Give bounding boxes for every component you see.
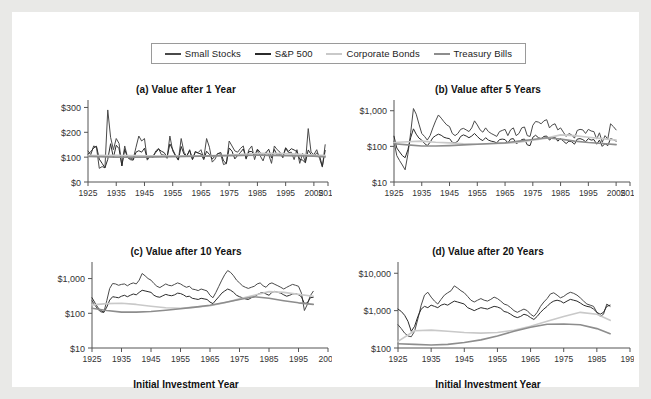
chart-panel-b: (b) Value after 5 Years $10$100$1,000192…	[342, 78, 634, 208]
legend-item-corporate-bonds: Corporate Bonds	[326, 48, 419, 59]
svg-text:1965: 1965	[191, 188, 210, 198]
svg-text:2005: 2005	[319, 354, 332, 364]
svg-text:1935: 1935	[422, 354, 441, 364]
svg-text:1995: 1995	[276, 188, 295, 198]
panel-c-plot: $10$100$1,000192519351945195519651975198…	[40, 240, 332, 368]
svg-text:$10: $10	[70, 344, 85, 354]
svg-text:1995: 1995	[621, 354, 634, 364]
svg-text:1945: 1945	[142, 354, 161, 364]
svg-text:1935: 1935	[412, 188, 431, 198]
svg-text:1985: 1985	[260, 354, 279, 364]
svg-text:$0: $0	[71, 178, 81, 188]
svg-text:$100: $100	[371, 344, 391, 354]
svg-text:1945: 1945	[135, 188, 154, 198]
svg-text:$10: $10	[372, 178, 387, 188]
svg-text:1925: 1925	[83, 354, 102, 364]
svg-text:1965: 1965	[201, 354, 220, 364]
svg-text:1935: 1935	[112, 354, 131, 364]
svg-text:1945: 1945	[440, 188, 459, 198]
svg-text:$100: $100	[65, 309, 85, 319]
svg-text:1985: 1985	[587, 354, 606, 364]
legend-item-treasury-bills: Treasury Bills	[434, 48, 513, 59]
svg-text:1925: 1925	[79, 188, 98, 198]
svg-text:$1,000: $1,000	[359, 106, 387, 116]
svg-text:1955: 1955	[488, 354, 507, 364]
page-background: Small Stocks S&P 500 Corporate Bonds Tre…	[0, 0, 651, 399]
svg-text:1935: 1935	[107, 188, 126, 198]
chart-panel-a: (a) Value after 1 Year $0$100$200$300192…	[40, 78, 332, 208]
svg-text:2010: 2010	[319, 188, 332, 198]
legend-swatch-treasury-bills	[434, 53, 450, 55]
svg-text:2010: 2010	[621, 188, 634, 198]
svg-text:$300: $300	[61, 103, 81, 113]
svg-text:$10,000: $10,000	[358, 269, 391, 279]
svg-text:1955: 1955	[171, 354, 190, 364]
svg-text:$1,000: $1,000	[57, 274, 85, 284]
svg-text:1985: 1985	[248, 188, 267, 198]
chart-panel-c: (c) Value after 10 Years $10$100$1,00019…	[40, 240, 332, 390]
svg-text:1965: 1965	[521, 354, 540, 364]
svg-text:1995: 1995	[289, 354, 308, 364]
svg-text:1985: 1985	[551, 188, 570, 198]
panel-d-plot: $100$1,000$10,00019251935194519551965197…	[342, 240, 634, 368]
chart-legend: Small Stocks S&P 500 Corporate Bonds Tre…	[151, 43, 526, 64]
chart-panel-d: (d) Value after 20 Years $100$1,000$10,0…	[342, 240, 634, 390]
legend-swatch-sp500	[255, 53, 271, 55]
legend-label-sp500: S&P 500	[275, 48, 313, 59]
svg-text:1975: 1975	[220, 188, 239, 198]
legend-swatch-small-stocks	[165, 53, 181, 55]
panel-b-plot: $10$100$1,000192519351945195519651975198…	[342, 78, 634, 208]
svg-text:1925: 1925	[385, 188, 404, 198]
svg-text:1975: 1975	[523, 188, 542, 198]
figure-card: Small Stocks S&P 500 Corporate Bonds Tre…	[12, 12, 639, 387]
svg-text:$100: $100	[367, 142, 387, 152]
legend-item-small-stocks: Small Stocks	[165, 48, 241, 59]
legend-label-corporate-bonds: Corporate Bonds	[346, 48, 419, 59]
svg-text:1925: 1925	[389, 354, 408, 364]
legend-label-treasury-bills: Treasury Bills	[454, 48, 513, 59]
legend-label-small-stocks: Small Stocks	[185, 48, 241, 59]
legend-item-sp500: S&P 500	[255, 48, 313, 59]
svg-text:1955: 1955	[468, 188, 487, 198]
svg-text:$1,000: $1,000	[363, 306, 391, 316]
svg-text:1955: 1955	[163, 188, 182, 198]
panel-c-xlabel: Initial Investment Year	[40, 379, 332, 390]
svg-text:1965: 1965	[496, 188, 515, 198]
svg-text:1975: 1975	[230, 354, 249, 364]
svg-text:1945: 1945	[455, 354, 474, 364]
svg-text:1975: 1975	[554, 354, 573, 364]
svg-text:1995: 1995	[579, 188, 598, 198]
legend-swatch-corporate-bonds	[326, 53, 342, 55]
panel-d-xlabel: Initial Investment Year	[342, 379, 634, 390]
panel-a-plot: $0$100$200$30019251935194519551965197519…	[40, 78, 332, 208]
svg-text:$200: $200	[61, 128, 81, 138]
svg-text:$100: $100	[61, 153, 81, 163]
